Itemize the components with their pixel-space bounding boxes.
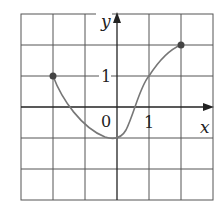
- x-axis-arrow-icon: [203, 103, 214, 111]
- y-axis-label: y: [100, 11, 111, 31]
- x-axis-label: x: [200, 117, 210, 137]
- x-tick-label-1: 1: [144, 113, 154, 132]
- start-point-dot: [50, 73, 57, 80]
- y-tick-label-1: 1: [101, 67, 111, 86]
- end-point-dot: [178, 42, 185, 49]
- origin-label: 0: [101, 112, 111, 131]
- function-graph: y x 0 1 1: [0, 0, 218, 209]
